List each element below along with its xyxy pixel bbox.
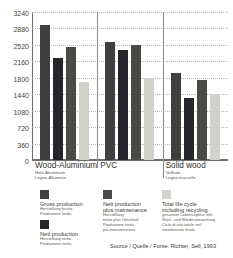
group-separator [97,12,98,160]
bar [210,94,220,160]
category-labels: Wood-AluminiumHolz-AluminiumLegno-Allumi… [32,161,228,185]
bar [197,80,207,160]
category-name: Wood-Aluminium [35,161,97,170]
bar-group [97,12,162,160]
y-tick-label: 1080 [13,108,29,115]
category-divider [163,160,164,178]
y-tick-label: 1800 [13,75,29,82]
y-tick-label: 360 [17,141,29,148]
y-tick-label: 0 [25,158,29,165]
category-name-it: Legno massello [166,175,228,180]
bar [118,50,128,160]
legend-swatch [40,190,49,199]
bar [184,98,194,160]
legend-item-2[interactable]: Nett productionHerstellung netto Produzi… [40,220,98,247]
y-tick-label: 720 [17,125,29,132]
bar [40,25,50,160]
bar [171,73,181,160]
source-citation: Source / Quelle / Fonte: Richter, Sell, … [110,243,216,249]
bar [131,45,141,160]
y-tick-label: 2520 [13,42,29,49]
category-divider [97,160,98,168]
y-tick-label: 3240 [13,10,29,17]
bar-group [163,12,228,160]
category-name: PVC [100,161,162,170]
bar [79,82,89,160]
legend-swatch [40,220,49,229]
legend-swatch [103,190,112,199]
bar [144,78,154,160]
bar [105,42,115,160]
y-tick-label: 2160 [13,59,29,66]
bar [53,58,63,160]
category-label-2: PVC [97,161,162,170]
legend-label-translations: Herstellung brutto Produzione lorda [40,207,98,217]
legend-item-4[interactable]: Total life cycle including recyclinggesa… [162,190,232,233]
legend-item-1[interactable]: Gross productionHerstellung brutto Produ… [40,190,98,217]
bar-groups [32,12,228,160]
group-separator [163,12,164,160]
bar [66,47,76,160]
category-label-3: Solid woodVollholzLegno massello [163,161,228,180]
chart-container: Primary energy / Primärenergie / Energia… [0,0,233,258]
legend-swatch [162,190,171,199]
plot-area: 03607201080144018002160252028803240 [32,12,228,160]
legend-item-3[interactable]: Nett production plus maintenanceHerstell… [103,190,161,233]
legend-label-translations: Herstellung netto Produzione netta [40,237,98,247]
chart-legend: Gross productionHerstellung brutto Produ… [40,190,233,246]
bar-group [32,12,97,160]
plot-inner: 03607201080144018002160252028803240 [32,12,228,160]
y-tick-label: 1440 [13,92,29,99]
category-name: Solid wood [166,161,228,170]
category-name-it: Legno-Alluminio [35,175,97,180]
legend-label-translations: Herstellung netto plus Unterhalt Produzi… [103,213,161,232]
category-label-1: Wood-AluminiumHolz-AluminiumLegno-Allumi… [32,161,97,180]
y-tick-label: 2880 [13,26,29,33]
legend-label-translations: gesamter Lebenszyklus inkl. Rück- und Wi… [162,213,232,232]
